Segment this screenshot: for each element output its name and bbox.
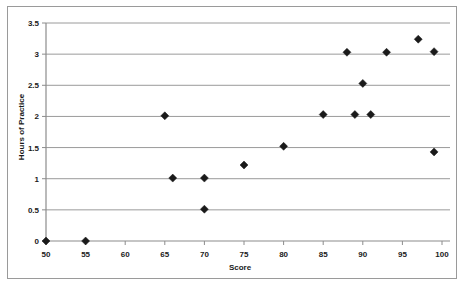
y-tick-label-1: 1 (35, 175, 40, 184)
data-point (280, 142, 288, 150)
x-tick-label-95: 95 (398, 250, 407, 259)
y-axis-title: Hours of Practice (17, 93, 26, 160)
chart-canvas: 50556065707580859095100 00.511.522.533.5… (8, 7, 458, 280)
y-tick-label-2: 2 (35, 112, 40, 121)
y-tick-label-2.5: 2.5 (28, 81, 40, 90)
data-point (430, 148, 438, 156)
axis-lines (42, 23, 450, 241)
y-tick-label-1.5: 1.5 (28, 144, 40, 153)
data-point (161, 112, 169, 120)
x-tick-label-80: 80 (279, 250, 288, 259)
y-tick-label-3: 3 (35, 50, 40, 59)
x-axis-title: Score (229, 263, 252, 272)
x-tick-label-65: 65 (160, 250, 169, 259)
y-tick-label-0.5: 0.5 (28, 206, 40, 215)
x-tick-label-100: 100 (435, 250, 449, 259)
chart-border-frame: 50556065707580859095100 00.511.522.533.5… (7, 6, 457, 279)
x-tick-label-60: 60 (121, 250, 130, 259)
x-axis-ticks (46, 241, 442, 245)
y-tick-label-3.5: 3.5 (28, 19, 40, 28)
x-tick-label-50: 50 (42, 250, 51, 259)
data-points (42, 35, 438, 245)
x-axis-tick-labels: 50556065707580859095100 (42, 250, 450, 259)
data-point (240, 161, 248, 169)
data-point (200, 205, 208, 213)
data-point (319, 111, 327, 119)
y-axis-tick-labels: 00.511.522.533.5 (28, 19, 40, 246)
data-point (343, 48, 351, 56)
data-point (414, 35, 422, 43)
data-point (383, 48, 391, 56)
data-point (200, 174, 208, 182)
x-tick-label-90: 90 (358, 250, 367, 259)
data-point (367, 111, 375, 119)
data-point (351, 111, 359, 119)
x-tick-label-70: 70 (200, 250, 209, 259)
x-tick-label-55: 55 (81, 250, 90, 259)
data-point (359, 79, 367, 87)
x-tick-label-75: 75 (240, 250, 249, 259)
scatter-plot: 50556065707580859095100 00.511.522.533.5… (8, 7, 458, 280)
data-point (169, 174, 177, 182)
data-point (42, 237, 50, 245)
data-point (82, 237, 90, 245)
y-tick-label-0: 0 (35, 237, 40, 246)
x-tick-label-85: 85 (319, 250, 328, 259)
